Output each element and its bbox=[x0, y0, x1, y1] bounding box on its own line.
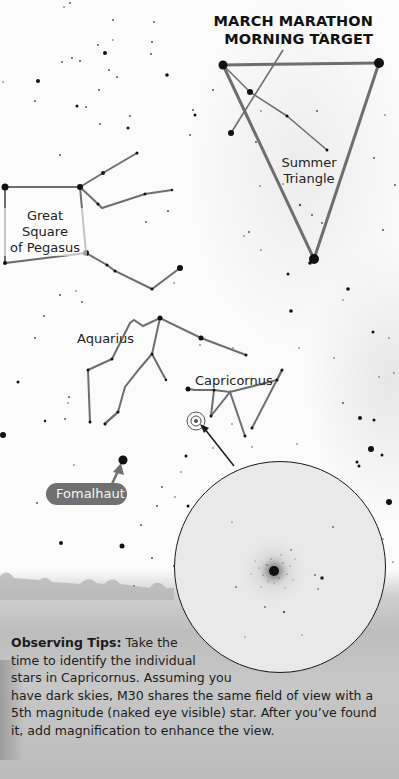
label-summer-triangle-line-2: Triangle bbox=[281, 171, 337, 187]
tips-line-3: stars in Capricornus. Assuming you bbox=[11, 669, 395, 687]
title-line-1: MARCH MARATHON bbox=[214, 12, 373, 30]
label-summer-triangle-line-1: Summer bbox=[281, 155, 337, 171]
tips-line-4: have dark skies, M30 shares the same fie… bbox=[11, 687, 395, 705]
label-pegasus-line-2: of Pegasus bbox=[3, 240, 87, 256]
label-summer-triangle: Summer Triangle bbox=[281, 155, 337, 187]
star-chart: MARCH MARATHON MORNING TARGET Summer Tri… bbox=[0, 0, 399, 779]
tips-heading: Observing Tips: bbox=[11, 635, 122, 650]
tips-line-6: it, add magnification to enhance the vie… bbox=[11, 722, 395, 740]
title-line-2: MORNING TARGET bbox=[214, 30, 373, 48]
tips-line-1: Observing Tips: Take the bbox=[11, 634, 395, 652]
tips-text-1: Take the bbox=[122, 635, 178, 650]
observing-tips: Observing Tips: Take the time to identif… bbox=[11, 634, 395, 740]
label-capricornus: Capricornus bbox=[195, 373, 273, 389]
horizon-trees bbox=[0, 572, 174, 600]
m30-cluster-core bbox=[269, 566, 279, 576]
chart-title: MARCH MARATHON MORNING TARGET bbox=[214, 12, 373, 48]
m30-pointer-arrow bbox=[200, 424, 234, 466]
tips-line-5: 5th magnitude (naked eye visible) star. … bbox=[11, 704, 395, 722]
tips-line-2: time to identify the individual bbox=[11, 652, 395, 670]
bright-stars bbox=[0, 51, 392, 549]
label-great-square-of-pegasus: Great Square of Pegasus bbox=[3, 208, 87, 256]
label-aquarius: Aquarius bbox=[77, 331, 134, 347]
label-fomalhaut: Fomalhaut bbox=[46, 483, 127, 505]
field-stars bbox=[231, 521, 374, 637]
label-pegasus-line-1: Great Square bbox=[3, 208, 87, 240]
fomalhaut-pointer-arrow bbox=[112, 463, 124, 484]
